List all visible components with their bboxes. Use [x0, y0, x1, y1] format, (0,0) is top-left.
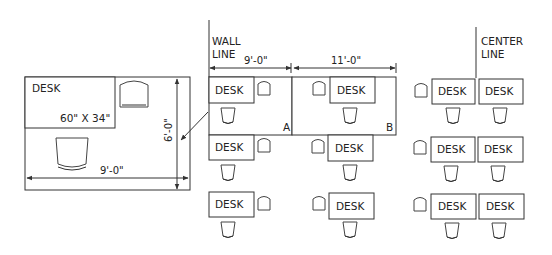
center-label-2: LINE [481, 48, 504, 60]
chair-icon [415, 84, 427, 98]
office-a-label: A [283, 121, 291, 133]
desk-label: DESK [215, 84, 244, 96]
wall-label-2: LINE [212, 48, 235, 60]
chair-icon [414, 198, 426, 212]
chair-icon [343, 108, 357, 124]
chair-icon [221, 222, 235, 238]
chair-icon [313, 82, 325, 96]
chair-icon [491, 166, 505, 182]
chair-icon [258, 197, 270, 211]
desk-label: DESK [215, 198, 244, 210]
desk-label: DESK [486, 200, 515, 212]
desk-label: DESK [215, 141, 244, 153]
office-layout-diagram: DESK 60" X 34" 9'-0" 6'-0" WALL LINE 9'-… [0, 0, 552, 255]
desk-size-label: 60" X 34" [60, 112, 110, 124]
chair-icon [493, 108, 507, 124]
desk-label: DESK [336, 200, 365, 212]
chair-icon [56, 138, 88, 170]
width-dimension: 9'-0" [100, 165, 124, 176]
center-label-1: CENTER [481, 35, 523, 47]
office-b-label: B [386, 121, 393, 133]
chair-icon [445, 223, 459, 239]
chair-icon [120, 81, 148, 107]
desk-label: DESK [485, 85, 514, 97]
desk-label: DESK [337, 84, 366, 96]
chair-icon [492, 223, 506, 239]
desk-label: DESK [484, 143, 513, 155]
desk-label: DESK [438, 85, 467, 97]
detail-office-plan: DESK 60" X 34" 9'-0" 6'-0" [25, 77, 208, 190]
wall-label-1: WALL [212, 35, 241, 47]
chair-icon [446, 108, 460, 124]
desk-label: DESK [437, 143, 466, 155]
height-dimension: 6'-0" [163, 118, 174, 142]
chair-icon [258, 82, 270, 96]
chair-icon [313, 197, 325, 211]
chair-icon [258, 139, 270, 153]
chair-icon [221, 108, 235, 124]
dim-a: 9'-0" [244, 55, 268, 66]
detail-desk-label: DESK [32, 82, 61, 94]
chair-icon [414, 141, 426, 155]
chair-icon [343, 222, 357, 238]
chair-icon [312, 140, 324, 154]
desk-label: DESK [335, 142, 364, 154]
chair-icon [444, 166, 458, 182]
chair-icon [343, 165, 357, 181]
chair-icon [221, 165, 235, 181]
dim-b: 11'-0" [331, 55, 361, 66]
desk-label: DESK [438, 200, 467, 212]
